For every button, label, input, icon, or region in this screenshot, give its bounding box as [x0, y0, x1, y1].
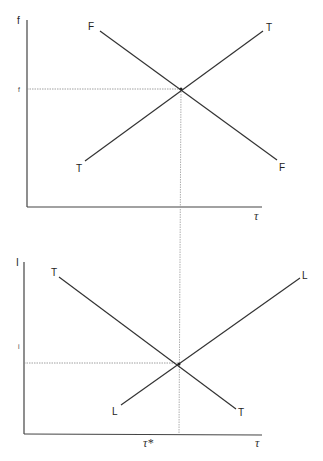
diagram-canvas: f f τ F F T T I i τ* τ T T L L: [0, 0, 323, 461]
bottom-y-tick-label: i: [18, 343, 20, 350]
top-curve-f-end-label: F: [279, 162, 285, 173]
top-x-axis-label: τ: [254, 209, 259, 223]
bottom-x-tick-label: τ*: [143, 436, 153, 450]
top-equilibrium-point: [180, 88, 183, 91]
top-panel: f f τ F F T T: [17, 15, 285, 434]
vertical-dashed-guide: [179, 89, 181, 434]
top-curve-f-start-label: F: [88, 21, 94, 32]
bottom-curve-l: [121, 278, 300, 405]
top-y-axis-label: f: [17, 15, 20, 26]
bottom-curve-l-start-label: L: [112, 406, 118, 417]
bottom-equilibrium-point: [178, 363, 181, 366]
bottom-curve-t-start-label: T: [51, 267, 57, 278]
bottom-curve-t-end-label: T: [238, 407, 244, 418]
bottom-x-axis-label: τ: [255, 436, 260, 450]
bottom-curve-t: [59, 277, 236, 409]
top-curve-t-start-label: T: [76, 163, 82, 174]
bottom-y-axis-label: I: [16, 257, 19, 268]
bottom-curve-l-end-label: L: [302, 270, 308, 281]
bottom-panel: I i τ* τ T T L L: [16, 257, 308, 450]
top-curve-t: [85, 31, 263, 161]
top-y-tick-label: f: [18, 86, 20, 93]
top-curve-t-end-label: T: [266, 22, 272, 33]
top-curve-f: [100, 31, 277, 160]
bottom-x-axis: [24, 434, 262, 435]
